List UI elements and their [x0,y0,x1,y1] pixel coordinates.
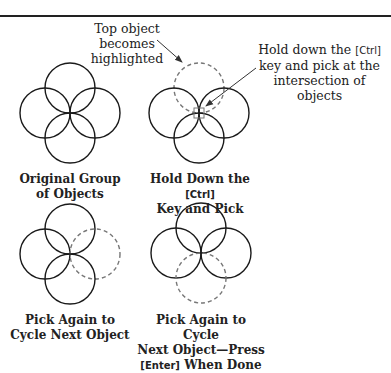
pick-again-done-circles [151,203,251,303]
circle-right [201,228,251,278]
enter-key-label: [Enter] [140,360,180,371]
circle-right [70,88,120,138]
caption-pick-again-done-line1: Pick Again to Cycle [136,313,266,343]
circle-bottom-highlighted [176,253,226,303]
callout-hold-ctrl: Hold down the [Ctrl] key and pick at the… [252,42,387,103]
callout-hold-ctrl-line1: Hold down the [Ctrl] [252,42,387,58]
caption-original: Original Group of Objects [15,172,125,202]
callout-hold-ctrl-text: Hold down the [258,42,355,57]
circle-left [20,88,70,138]
caption-pick-again: Pick Again to Cycle Next Object [10,313,130,343]
circle-bottom [45,113,95,163]
circle-left [20,229,70,279]
caption-pick-again-line2: Cycle Next Object [10,328,130,343]
circle-top [45,204,95,254]
caption-pick-again-done: Pick Again to Cycle Next Object—Press [E… [136,313,266,373]
caption-hold-ctrl-text: Hold Down the [150,172,250,186]
caption-hold-ctrl: Hold Down the [Ctrl] Key and Pick [135,172,265,217]
hold-ctrl-circles [149,63,249,163]
callout-top-object-line2: highlighted [72,51,182,66]
callout-hold-ctrl-line2: key and pick at the [252,58,387,73]
caption-pick-again-done-text: When Done [180,358,262,372]
circle-left [151,228,201,278]
caption-pick-again-done-line3: [Enter] When Done [136,358,266,373]
circle-top [45,63,95,113]
caption-hold-ctrl-line1: Hold Down the [Ctrl] [135,172,265,202]
circle-right-highlighted [70,229,120,279]
circle-left [149,88,199,138]
callout-top-object: Top object becomes highlighted [72,21,182,66]
original-group-circles [20,63,120,163]
ctrl-key-label: [Ctrl] [185,189,215,200]
pick-again-circles [20,204,120,304]
caption-original-line2: of Objects [15,187,125,202]
intersection-arrow [206,68,256,106]
circle-top-highlighted [174,63,224,113]
ctrl-key-label: [Ctrl] [355,45,381,56]
callout-top-object-line1: Top object becomes [72,21,182,51]
circle-right [199,88,249,138]
circle-bottom [174,113,224,163]
circle-bottom [45,254,95,304]
callout-hold-ctrl-line3: intersection of objects [252,73,387,103]
caption-original-line1: Original Group [15,172,125,187]
caption-pick-again-done-line2: Next Object—Press [136,343,266,358]
caption-pick-again-line1: Pick Again to [10,313,130,328]
caption-hold-ctrl-line2: Key and Pick [135,202,265,217]
